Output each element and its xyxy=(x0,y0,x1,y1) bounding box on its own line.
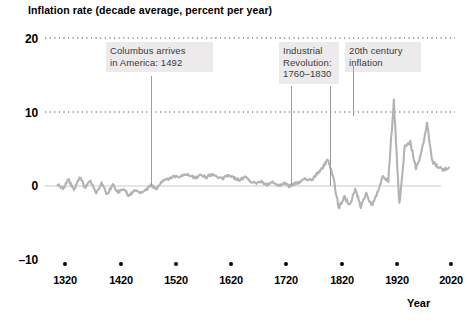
y-axis-tick-0: 20 xyxy=(8,32,38,46)
x-axis-tick-dot-0 xyxy=(63,262,67,266)
y-axis-tick-3: –10 xyxy=(8,253,38,267)
x-axis-tick-dot-2 xyxy=(174,262,178,266)
y-axis-tick-2: 0 xyxy=(8,179,38,193)
x-axis-tick-dot-7 xyxy=(449,262,453,266)
data-series-line xyxy=(57,99,449,208)
x-axis-title: Year xyxy=(407,297,430,309)
x-axis-tick-1: 1420 xyxy=(101,274,141,286)
columbus-annotation: Columbus arrives in America: 1492 xyxy=(106,42,213,72)
x-axis-tick-dot-3 xyxy=(229,262,233,266)
x-axis-tick-3: 1620 xyxy=(211,274,251,286)
y-axis-tick-1: 10 xyxy=(8,106,38,120)
x-axis-tick-6: 1920 xyxy=(377,274,417,286)
industrial-revolution-leader-line-end xyxy=(330,86,331,186)
twentieth-century-leader-line xyxy=(353,66,354,116)
twentieth-century-annotation: 20th century inflation xyxy=(345,42,421,72)
industrial-revolution-annotation: Industrial Revolution: 1760–1830 xyxy=(279,42,339,84)
x-axis-tick-dot-6 xyxy=(395,262,399,266)
x-axis-tick-dot-1 xyxy=(119,262,123,266)
x-axis-tick-0: 1320 xyxy=(45,274,85,286)
x-axis-tick-dot-4 xyxy=(284,262,288,266)
x-axis-tick-dot-5 xyxy=(340,262,344,266)
x-axis-tick-7: 2020 xyxy=(431,274,467,286)
chart-root: Inflation rate (decade average, percent … xyxy=(0,0,467,324)
x-axis-tick-2: 1520 xyxy=(156,274,196,286)
industrial-revolution-leader-line-start xyxy=(291,86,292,186)
x-axis-tick-4: 1720 xyxy=(266,274,306,286)
columbus-leader-line xyxy=(151,76,152,186)
x-axis-tick-5: 1820 xyxy=(322,274,362,286)
